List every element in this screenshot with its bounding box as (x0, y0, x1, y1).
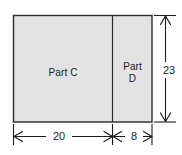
dimension-value-8: 8 (125, 130, 143, 142)
part-d-label-line1: Part (123, 61, 142, 72)
dimensioned-rectangle-figure: Part C Part D 20 8 23 (0, 0, 182, 155)
dimension-value-23: 23 (162, 62, 182, 78)
part-d-label-line2: D (129, 73, 136, 84)
part-d-label: Part D (113, 61, 152, 84)
dimension-value-20: 20 (46, 130, 72, 142)
part-c-label: Part C (14, 67, 112, 79)
